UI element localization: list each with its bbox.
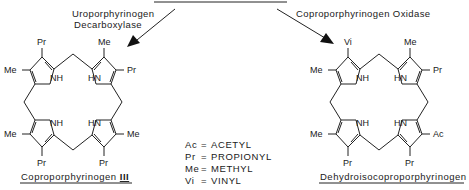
substituent-right-lower: Me <box>127 129 140 139</box>
nh-label: HN <box>394 73 407 83</box>
substituent-bottom-left: Pr <box>37 158 46 168</box>
substituent-top-left: Pr <box>37 37 46 47</box>
substituent-bottom-left: Pr <box>343 158 352 168</box>
compound-name-left: Coproporphyrinogen III <box>21 171 129 182</box>
substituent-right-upper: Pr <box>433 65 442 75</box>
enzyme-label-right: Coproporphyrinogen Oxidase <box>296 8 431 19</box>
nh-label: NH <box>50 118 63 128</box>
substituent-top-right: Me <box>98 37 111 47</box>
substituent-top-right: Me <box>404 37 417 47</box>
substituent-left-upper: Me <box>4 65 17 75</box>
legend-item: Vi=VINYL <box>185 175 241 186</box>
substituent-left-upper: Me <box>310 65 323 75</box>
pathway-diagram: Uroporphyrinogen Decarboxylase Coproporp… <box>0 0 469 190</box>
substituent-left-lower: Me <box>4 129 17 139</box>
nh-label: HN <box>88 118 101 128</box>
nh-label: NH <box>356 118 369 128</box>
abbreviation-legend: Ac=ACETYL Pr=PROPIONYL Me=METHYL Vi=VINY… <box>185 139 272 186</box>
substituent-right-upper: Pr <box>127 65 136 75</box>
nh-label: HN <box>88 73 101 83</box>
substituent-right-lower: Ac <box>433 129 444 139</box>
nh-label: NH <box>356 73 369 83</box>
legend-item: Pr=PROPIONYL <box>185 151 272 162</box>
substituent-left-lower: Me <box>310 129 323 139</box>
nh-label: HN <box>394 118 407 128</box>
substituent-bottom-right: Pr <box>99 158 108 168</box>
nh-label: NH <box>50 73 63 83</box>
legend-item: Ac=ACETYL <box>185 139 252 150</box>
molecule-coproporphyrinogen-iii: Pr Me Me Pr Me Me Pr Pr NH HN NH HN Copr… <box>4 37 140 183</box>
molecule-dehydroisocoproporphyrinogen: Vi Me Me Pr Me Ac Pr Pr NH HN NH HN Dehy… <box>310 37 467 183</box>
enzyme-label-left-line1: Uroporphyrinogen <box>72 8 154 19</box>
enzyme-label-left-line2: Decarboxylase <box>74 19 142 30</box>
substituent-bottom-right: Pr <box>405 158 414 168</box>
legend-item: Me=METHYL <box>185 163 253 174</box>
compound-name-right: Dehydroisocoproporphyrinogen <box>320 171 467 182</box>
substituent-top-left: Vi <box>344 37 352 47</box>
